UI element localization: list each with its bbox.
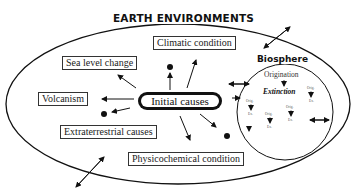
mini-orig-4: Orig.	[307, 86, 314, 90]
mini-orig-2: Orig.	[265, 112, 272, 116]
mini-ex-3: Ex.	[288, 118, 293, 122]
mini-ex-1: Ex.	[248, 112, 253, 116]
biosphere-title: Biosphere	[255, 54, 310, 64]
biosphere-extinction: Extinction	[263, 87, 296, 96]
cause-volcanism: Volcanism	[38, 92, 88, 106]
biosphere-origination: Origination	[264, 70, 299, 79]
mini-ex-2: Ex.	[267, 125, 272, 129]
diagram-title: EARTH ENVIRONMENTS	[110, 12, 257, 24]
mini-orig-3: Orig.	[286, 105, 293, 109]
initial-causes-label: Initial causes	[141, 95, 219, 107]
cause-sea-level-change: Sea level change	[62, 56, 137, 70]
cause-physicochemical-condition: Physicochemical condition	[128, 152, 244, 166]
cause-extraterrestrial-causes: Extraterrestrial causes	[60, 125, 157, 139]
initial-causes-node: Initial causes	[138, 92, 222, 110]
mini-orig-1: Orig.	[246, 99, 253, 103]
cause-climatic-condition: Climatic condition	[153, 36, 236, 50]
mini-ex-4: Ex.	[309, 99, 314, 103]
